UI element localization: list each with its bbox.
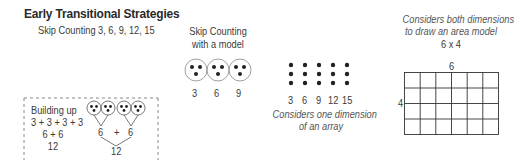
building-up-step: 6 + 6	[31, 128, 75, 140]
array-caption-line1: Considers one dimension	[273, 108, 370, 120]
diagram-title: Early Transitional Strategies	[24, 6, 180, 21]
building-up-operator: +	[114, 126, 119, 138]
building-up-text: Building up 3 + 3 + 3 + 3 6 + 6 12	[28, 104, 78, 152]
area-model-expression: 6 x 4	[403, 38, 500, 50]
building-up-step: 12	[31, 140, 75, 152]
area-model-caption-line1: Considers both dimensions	[403, 13, 500, 25]
building-up-total: 12	[111, 145, 121, 157]
skip-counting-model-label-line2: with a model	[183, 38, 253, 50]
skip-model-value: 9	[236, 87, 241, 99]
area-model-caption-line2: to draw an area model	[403, 25, 500, 37]
area-model-caption: Considers both dimensions to draw an are…	[396, 13, 506, 50]
array-caption: Considers one dimension of an array	[266, 108, 376, 132]
array-value: 15	[342, 94, 352, 106]
skip-counting-model-section: Skip Counting with a model	[178, 25, 258, 50]
array-value: 9	[316, 94, 321, 106]
dot-group-circle	[207, 59, 229, 81]
area-model-side-label: 4	[398, 97, 403, 109]
array-value: 3	[288, 94, 293, 106]
building-up-label: Building up	[31, 104, 75, 116]
skip-model-value: 3	[192, 87, 197, 99]
dot-group-circle	[185, 59, 207, 81]
dot-array	[286, 60, 356, 88]
building-up-partial-right: 6	[128, 126, 133, 138]
array-value: 6	[302, 94, 307, 106]
area-model-top-label: 6	[449, 60, 454, 72]
building-up-partial-left: 6	[98, 126, 103, 138]
skip-counting-label: Skip Counting 3, 6, 9, 12, 15	[38, 24, 155, 36]
array-value: 12	[328, 94, 338, 106]
skip-model-value: 6	[214, 87, 219, 99]
building-up-step: 3 + 3 + 3 + 3	[31, 116, 75, 128]
dot-group-circle	[229, 59, 251, 81]
area-model-grid	[404, 72, 500, 136]
skip-counting-model-label-line1: Skip Counting	[183, 25, 253, 37]
array-caption-line2: of an array	[273, 120, 370, 132]
